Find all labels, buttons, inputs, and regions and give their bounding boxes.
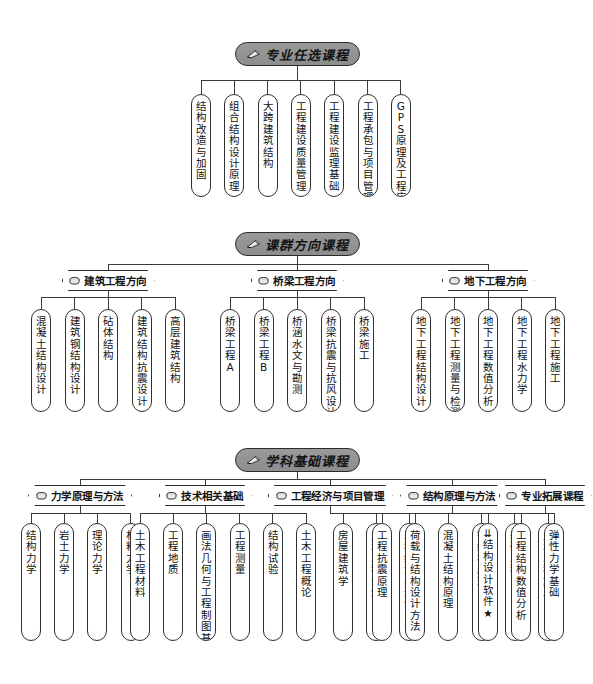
child-stem bbox=[514, 513, 515, 523]
course-box[interactable]: 桥涵水文与勘测 bbox=[287, 309, 307, 412]
cup-icon bbox=[276, 491, 287, 501]
course-box[interactable]: 地下工程水力学 bbox=[512, 309, 532, 412]
course-label: 建筑结构抗震设计 bbox=[133, 316, 151, 407]
child-stem bbox=[234, 80, 235, 94]
course-box[interactable]: 结构试验 bbox=[263, 523, 283, 641]
child-stem bbox=[306, 513, 307, 523]
course-box[interactable]: 荷载与结构设计方法 bbox=[405, 523, 425, 641]
course-box[interactable]: 地下工程测量与检测 bbox=[445, 309, 465, 412]
child-stem bbox=[400, 80, 401, 94]
course-box[interactable]: 工程建设监理基础 bbox=[324, 94, 344, 197]
course-box[interactable]: 建筑钢结构设计 bbox=[65, 309, 85, 412]
subcategory-label: 力学原理与方法 bbox=[51, 488, 124, 503]
subcategory-header[interactable]: 地下工程方向 bbox=[442, 270, 535, 291]
course-box[interactable]: 工程结构数值分析 bbox=[511, 523, 531, 641]
subcategory-label: 技术相关基础 bbox=[181, 488, 243, 503]
course-box[interactable]: 工程地质 bbox=[163, 523, 183, 641]
course-box[interactable]: 组合结构设计原理 bbox=[224, 94, 244, 197]
subcategory-header[interactable]: 建筑工程方向 bbox=[62, 270, 155, 291]
pen-icon bbox=[246, 48, 261, 60]
course-box[interactable]: 理论力学 bbox=[87, 523, 107, 641]
course-box[interactable]: 土木工程材料 bbox=[130, 523, 150, 641]
course-label: ⇊结构设计软件★ bbox=[479, 528, 497, 619]
course-label: 岩土力学 bbox=[55, 530, 73, 576]
section-header-foundation[interactable]: 学科基础课程 bbox=[235, 448, 360, 472]
child-stem bbox=[454, 297, 455, 309]
subcategory-header[interactable]: 工程经济与项目管理 bbox=[268, 485, 393, 506]
course-box[interactable]: 混凝土结构原理 bbox=[438, 523, 458, 641]
section-header-label: 学科基础课程 bbox=[265, 451, 349, 470]
child-stem bbox=[382, 513, 383, 523]
cup-icon bbox=[69, 276, 80, 286]
course-box[interactable]: 高层建筑结构 bbox=[165, 309, 185, 412]
section-header-label: 专业任选课程 bbox=[265, 45, 349, 64]
course-box[interactable]: 工程测量 bbox=[230, 523, 250, 641]
child-stem bbox=[297, 297, 298, 309]
child-stem bbox=[272, 513, 273, 523]
course-box[interactable]: 房屋建筑学 bbox=[333, 523, 353, 641]
child-stem bbox=[173, 513, 174, 523]
subcategory-header[interactable]: 桥梁工程方向 bbox=[251, 270, 344, 291]
child-stem bbox=[421, 297, 422, 309]
child-stem bbox=[343, 513, 344, 523]
course-box[interactable]: 工程承包与项目管理 bbox=[358, 94, 378, 197]
course-box[interactable]: 工程建设质量管理 bbox=[291, 94, 311, 197]
course-box[interactable]: GPS原理及工程应用 bbox=[391, 94, 411, 197]
course-label: 组合结构设计原理 bbox=[225, 101, 243, 192]
course-label: 工程抗震原理 bbox=[373, 530, 391, 598]
course-label: 大跨建筑结构 bbox=[259, 101, 277, 169]
course-box[interactable]: 混凝土结构设计 bbox=[31, 309, 51, 412]
cup-icon bbox=[36, 491, 47, 501]
child-stem bbox=[555, 297, 556, 309]
cup-icon bbox=[408, 491, 419, 501]
course-label: 混凝土结构原理 bbox=[439, 530, 457, 610]
subcategory-header[interactable]: 结构原理与方法 bbox=[400, 485, 504, 506]
course-box[interactable]: 地下工程结构设计 bbox=[411, 309, 431, 412]
course-box[interactable]: 桥梁工程A bbox=[220, 309, 240, 412]
subcategory-header[interactable]: 力学原理与方法 bbox=[28, 485, 132, 506]
child-stem bbox=[481, 513, 482, 523]
course-box[interactable]: 弹性力学基础 bbox=[544, 523, 564, 641]
course-box[interactable]: 地下工程施工 bbox=[545, 309, 565, 412]
cup-icon bbox=[506, 491, 517, 501]
subcategory-label: 专业拓展课程 bbox=[521, 488, 583, 503]
child-stem bbox=[263, 297, 264, 309]
course-box[interactable]: ⇊结构设计软件★ bbox=[478, 523, 498, 641]
course-box[interactable]: 砧体结构 bbox=[98, 309, 118, 412]
child-stem bbox=[206, 513, 207, 523]
course-box[interactable]: 建筑结构抗震设计 bbox=[132, 309, 152, 412]
curriculum-diagram: 专业任选课程结构改造与加固组合结构设计原理大跨建筑结构工程建设质量管理工程建设监… bbox=[0, 0, 593, 684]
subcategory-label: 建筑工程方向 bbox=[84, 273, 146, 288]
child-stem bbox=[141, 297, 142, 309]
course-label: 地下工程水力学 bbox=[513, 316, 531, 396]
child-stem bbox=[376, 513, 377, 523]
course-label: 结构力学 bbox=[22, 530, 40, 576]
course-box[interactable]: 结构力学 bbox=[21, 523, 41, 641]
course-box[interactable]: 地下工程数值分析 bbox=[478, 309, 498, 412]
section-header-elective[interactable]: 专业任选课程 bbox=[235, 42, 360, 66]
parent-stem bbox=[297, 256, 298, 264]
parent-stem bbox=[80, 506, 81, 513]
subcategory-header[interactable]: 专业拓展课程 bbox=[499, 485, 592, 506]
bracket-bar bbox=[80, 479, 545, 480]
course-box[interactable]: 桥梁抗震与抗风设计 bbox=[321, 309, 341, 412]
course-box[interactable]: 土木工程概论 bbox=[296, 523, 316, 641]
course-box[interactable]: 结构改造与加固 bbox=[191, 94, 211, 197]
course-box[interactable]: 画法几何与工程制图基础 bbox=[196, 523, 216, 641]
bracket-bar bbox=[140, 513, 306, 514]
course-box[interactable]: 桥梁施工 bbox=[354, 309, 374, 412]
cup-icon bbox=[166, 491, 177, 501]
bracket-bar bbox=[31, 513, 131, 514]
course-label: 地下工程结构设计 bbox=[412, 316, 430, 407]
child-stem bbox=[521, 297, 522, 309]
course-box[interactable]: 桥梁工程B bbox=[254, 309, 274, 412]
child-stem bbox=[448, 513, 449, 523]
child-stem bbox=[64, 513, 65, 523]
course-label: 结构改造与加固 bbox=[192, 101, 210, 181]
course-box[interactable]: 大跨建筑结构 bbox=[258, 94, 278, 197]
course-box[interactable]: 岩土力学 bbox=[54, 523, 74, 641]
subcategory-header[interactable]: 技术相关基础 bbox=[159, 485, 252, 506]
section-header-direction[interactable]: 课群方向课程 bbox=[235, 232, 360, 256]
child-stem bbox=[364, 297, 365, 309]
course-box[interactable]: 工程抗震原理 bbox=[372, 523, 392, 641]
